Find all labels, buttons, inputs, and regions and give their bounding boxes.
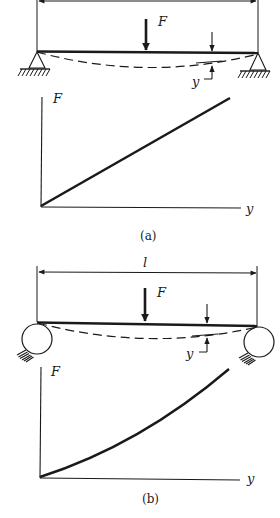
force-label: F: [156, 285, 167, 300]
caption-a: (a): [140, 229, 157, 243]
span-label: l: [143, 255, 147, 270]
force-label: F: [157, 14, 168, 29]
graph-b-nonlinear-curve: [40, 369, 229, 477]
graph-b-x-label: y: [246, 471, 255, 486]
graph-a-linear-curve: [41, 98, 230, 206]
graph-a-x-axis: [41, 207, 241, 208]
left-roller-support-icon: [17, 324, 52, 362]
graph-b-x-axis: [40, 478, 240, 480]
graph-a-x-label: y: [245, 201, 254, 216]
panel-b-graph: F y (b): [40, 364, 255, 506]
graph-a-y-label: F: [52, 91, 63, 106]
left-pin-support-icon: [18, 52, 50, 76]
beam-deflection-figure: F y: [0, 0, 280, 518]
panel-a-graph: F y (a): [41, 91, 254, 243]
deflected-shape-dashed: [37, 52, 258, 68]
span-dimension-line: [39, 272, 256, 273]
graph-b-y-axis: [40, 367, 41, 478]
caption-b: (b): [142, 492, 159, 506]
graph-a-y-axis: [41, 97, 42, 207]
panel-a-beam: F y: [18, 0, 270, 89]
panel-b-beam: l F y: [17, 255, 274, 365]
beam: [37, 323, 257, 327]
beam: [37, 52, 258, 54]
right-roller-support-icon: [239, 327, 274, 365]
right-pin-support-icon: [238, 53, 270, 78]
graph-b-y-label: F: [50, 364, 61, 379]
deflection-label: y: [185, 346, 194, 361]
deflection-label: y: [191, 74, 200, 89]
